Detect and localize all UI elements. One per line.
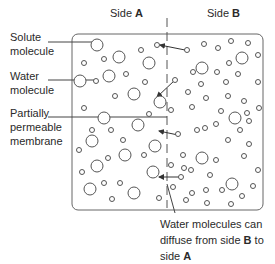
osmosis-diagram [0,0,275,264]
molecules [74,39,262,207]
